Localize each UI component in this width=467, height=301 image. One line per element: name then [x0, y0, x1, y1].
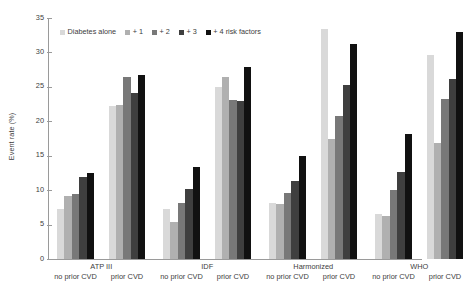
y-tick-label: 15	[36, 150, 44, 160]
bar	[79, 177, 86, 259]
x-axis-labels: ATP IIIno prior CVDprior CVDIDFno prior …	[48, 262, 422, 300]
y-tick-label: 20	[36, 116, 44, 126]
y-tick-label: 25	[36, 81, 44, 91]
x-subgroup-label: prior CVD	[411, 272, 467, 281]
bar	[269, 203, 276, 259]
x-group-label: WHO	[374, 262, 464, 271]
y-axis-title: Event rate (%)	[7, 92, 16, 182]
bar	[382, 216, 389, 259]
bar	[229, 100, 236, 259]
bar	[291, 181, 298, 259]
x-group-label: IDF	[162, 262, 252, 271]
bar	[335, 116, 342, 259]
bar	[441, 99, 448, 259]
bar	[343, 85, 350, 259]
bar	[321, 29, 328, 259]
bar-series-container	[49, 18, 422, 259]
plot-area: 05101520253035	[48, 18, 422, 260]
bar	[64, 196, 71, 259]
bar	[434, 143, 441, 259]
bar	[244, 67, 251, 259]
bar	[109, 106, 116, 259]
bar	[72, 194, 79, 259]
bar	[185, 189, 192, 259]
bar	[427, 55, 434, 259]
bar	[456, 32, 463, 259]
bar	[284, 193, 291, 259]
bar	[138, 75, 145, 259]
bar	[163, 209, 170, 259]
bar	[276, 204, 283, 259]
bar	[116, 105, 123, 259]
x-group-label: ATP III	[56, 262, 146, 271]
y-tick-label: 10	[36, 185, 44, 195]
bar	[123, 77, 130, 259]
bar	[87, 173, 94, 259]
bar	[375, 214, 382, 259]
bar	[397, 172, 404, 259]
bar	[178, 203, 185, 259]
y-tick-label: 30	[36, 47, 44, 57]
bar	[131, 93, 138, 259]
bar	[193, 167, 200, 259]
bar	[170, 222, 177, 259]
bar	[237, 101, 244, 259]
y-tick-mark	[47, 259, 52, 260]
bar	[57, 209, 64, 259]
bar	[328, 139, 335, 260]
bar	[390, 190, 397, 259]
bar	[350, 44, 357, 259]
y-tick-label: 0	[40, 254, 44, 264]
bar	[449, 79, 456, 259]
bar	[222, 77, 229, 259]
y-tick-label: 5	[40, 219, 44, 229]
x-axis-line	[48, 259, 422, 260]
bar	[215, 87, 222, 259]
bar	[299, 156, 306, 259]
y-tick: 0	[48, 259, 53, 260]
bar	[405, 134, 412, 259]
x-group-label: Harmonized	[268, 262, 358, 271]
y-tick-label: 35	[36, 13, 44, 23]
